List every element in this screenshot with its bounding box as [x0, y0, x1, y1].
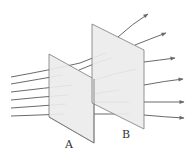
- plane-b: [92, 24, 144, 129]
- field-diagram: A B: [0, 0, 193, 155]
- plane-b-label: B: [122, 128, 130, 141]
- plane-a-label: A: [64, 138, 74, 151]
